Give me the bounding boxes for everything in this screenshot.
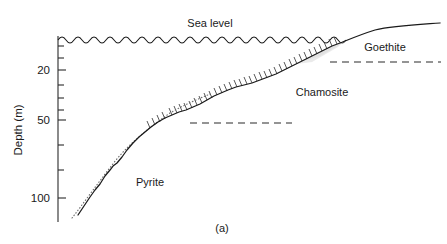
depth-axis: 20 50 100 Depth (m): [12, 36, 66, 222]
sea-level-wave-line: [58, 37, 346, 43]
figure-caption: (a): [215, 222, 228, 234]
axis-tick-label-50: 50: [37, 114, 50, 126]
profile-hatching: [147, 37, 337, 128]
chamosite-label: Chamosite: [296, 86, 349, 98]
sea-level-label: Sea level: [187, 17, 232, 29]
axis-tick-label-20: 20: [37, 64, 50, 76]
goethite-label: Goethite: [364, 41, 406, 53]
pyrite-label: Pyrite: [136, 176, 164, 188]
figure-container: 20 50 100 Depth (m): [0, 0, 447, 244]
dotted-alternate-profile: [72, 94, 210, 218]
axis-title-depth: Depth (m): [12, 104, 24, 155]
cross-section-diagram: 20 50 100 Depth (m): [0, 0, 447, 244]
axis-tick-label-100: 100: [31, 192, 50, 204]
